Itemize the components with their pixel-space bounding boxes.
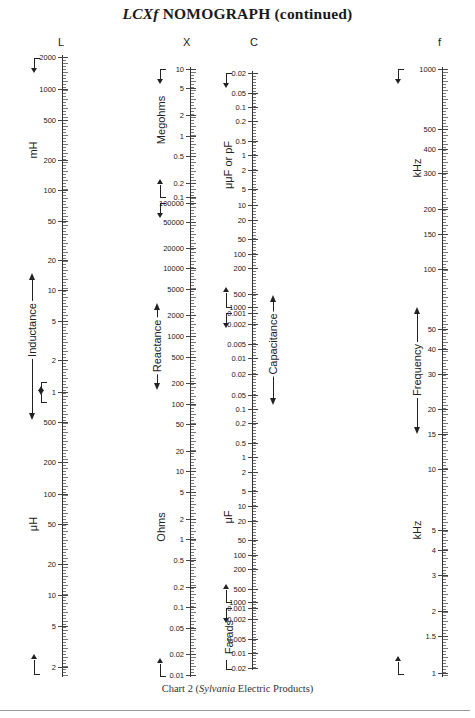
tick-label: 0.05 bbox=[231, 89, 246, 98]
minor-tick bbox=[191, 213, 194, 214]
minor-tick bbox=[443, 417, 446, 418]
minor-tick bbox=[253, 466, 256, 467]
minor-tick bbox=[443, 360, 448, 361]
tick-label: 1 bbox=[180, 535, 184, 544]
minor-tick bbox=[63, 216, 68, 217]
major-tick bbox=[248, 457, 258, 458]
minor-tick bbox=[63, 660, 66, 661]
minor-tick bbox=[443, 342, 448, 343]
tick-label: 5 bbox=[242, 487, 246, 496]
tick-label: 0.5 bbox=[174, 152, 184, 161]
minor-tick bbox=[63, 297, 68, 298]
minor-tick bbox=[443, 285, 446, 286]
minor-tick bbox=[253, 145, 256, 146]
minor-tick bbox=[191, 576, 196, 577]
minor-tick bbox=[253, 649, 256, 650]
minor-tick bbox=[63, 93, 66, 94]
minor-tick bbox=[191, 462, 194, 463]
minor-tick bbox=[63, 375, 66, 376]
quantity-label: Capacitance bbox=[267, 311, 279, 376]
minor-tick bbox=[443, 126, 448, 127]
minor-tick bbox=[191, 276, 194, 277]
arrow-up-icon bbox=[223, 287, 229, 292]
major-tick bbox=[186, 197, 196, 198]
minor-tick bbox=[63, 615, 66, 616]
minor-tick bbox=[253, 274, 256, 275]
minor-tick bbox=[253, 142, 256, 143]
minor-tick bbox=[253, 352, 256, 353]
minor-tick bbox=[63, 258, 66, 259]
minor-tick bbox=[191, 390, 194, 391]
minor-tick bbox=[191, 498, 194, 499]
tick-label: 30 bbox=[428, 370, 436, 379]
minor-tick bbox=[443, 381, 446, 382]
minor-tick bbox=[191, 198, 196, 199]
minor-tick bbox=[253, 580, 256, 581]
minor-tick bbox=[443, 120, 446, 121]
minor-tick bbox=[443, 318, 446, 319]
minor-tick bbox=[443, 387, 448, 388]
minor-tick bbox=[191, 567, 196, 568]
minor-tick bbox=[443, 513, 448, 514]
minor-tick bbox=[253, 223, 256, 224]
minor-tick bbox=[443, 576, 448, 577]
minor-tick bbox=[443, 555, 446, 556]
minor-tick bbox=[191, 384, 194, 385]
minor-tick bbox=[443, 156, 446, 157]
minor-tick bbox=[63, 612, 68, 613]
tick-label: 200 bbox=[423, 205, 436, 214]
minor-tick bbox=[191, 210, 194, 211]
minor-tick bbox=[63, 483, 66, 484]
minor-tick bbox=[63, 318, 66, 319]
minor-tick bbox=[443, 246, 446, 247]
minor-tick bbox=[253, 271, 256, 272]
minor-tick bbox=[253, 439, 256, 440]
minor-tick bbox=[63, 123, 66, 124]
minor-tick bbox=[443, 174, 446, 175]
tick-label: 200 bbox=[43, 156, 56, 165]
minor-tick bbox=[443, 483, 446, 484]
major-tick bbox=[248, 254, 258, 255]
minor-tick bbox=[191, 552, 194, 553]
minor-tick bbox=[191, 639, 196, 640]
major-tick bbox=[438, 129, 448, 130]
tick-label: 50 bbox=[428, 325, 436, 334]
minor-tick bbox=[443, 219, 446, 220]
minor-tick bbox=[253, 661, 256, 662]
tick-label: 3 bbox=[432, 571, 436, 580]
minor-tick bbox=[63, 570, 66, 571]
minor-tick bbox=[63, 453, 66, 454]
tick-label: 5 bbox=[180, 84, 184, 93]
minor-tick bbox=[191, 387, 196, 388]
minor-tick bbox=[63, 60, 66, 61]
minor-tick bbox=[443, 84, 446, 85]
minor-tick bbox=[191, 126, 196, 127]
minor-tick bbox=[63, 222, 66, 223]
minor-tick bbox=[191, 300, 194, 301]
major-tick bbox=[186, 404, 196, 405]
minor-tick bbox=[63, 273, 66, 274]
minor-tick bbox=[443, 225, 448, 226]
major-tick bbox=[186, 156, 196, 157]
tick-label: 50 bbox=[238, 536, 246, 545]
minor-tick bbox=[63, 411, 66, 412]
minor-tick bbox=[63, 315, 68, 316]
minor-tick bbox=[63, 351, 68, 352]
minor-tick bbox=[253, 334, 256, 335]
minor-tick bbox=[443, 144, 448, 145]
minor-tick bbox=[443, 378, 448, 379]
major-tick bbox=[248, 521, 258, 522]
minor-tick bbox=[191, 669, 194, 670]
minor-tick bbox=[191, 207, 196, 208]
minor-tick bbox=[63, 609, 66, 610]
minor-tick bbox=[253, 433, 256, 434]
minor-tick bbox=[191, 78, 194, 79]
minor-tick bbox=[253, 598, 256, 599]
minor-tick bbox=[253, 250, 256, 251]
minor-tick bbox=[253, 532, 256, 533]
minor-tick bbox=[191, 429, 194, 430]
minor-tick bbox=[191, 234, 196, 235]
major-tick bbox=[248, 189, 258, 190]
minor-tick bbox=[191, 630, 196, 631]
tick-label: 500 bbox=[43, 116, 56, 125]
